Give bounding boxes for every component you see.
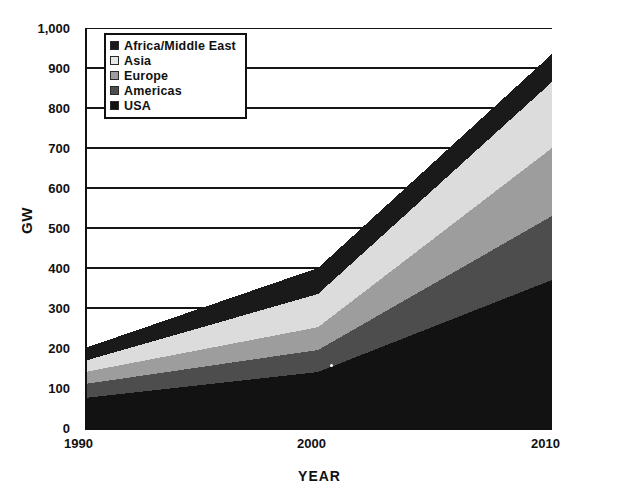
legend-swatch-icon bbox=[110, 86, 119, 95]
y-tick-1000: 1,000 bbox=[12, 21, 70, 36]
x-tick-2000: 2000 bbox=[297, 436, 326, 451]
y-tick-400: 400 bbox=[12, 261, 70, 276]
scan-speck bbox=[330, 364, 333, 367]
chart-page: GW 1,000 900 800 700 600 500 400 300 200… bbox=[0, 0, 639, 498]
y-tick-800: 800 bbox=[12, 101, 70, 116]
legend-swatch-icon bbox=[110, 71, 119, 80]
y-tick-700: 700 bbox=[12, 141, 70, 156]
y-tick-0: 0 bbox=[12, 421, 70, 436]
y-tick-600: 600 bbox=[12, 181, 70, 196]
y-axis-tick-labels: 1,000 900 800 700 600 500 400 300 200 10… bbox=[12, 0, 70, 498]
legend: Africa/Middle East Asia Europe Americas … bbox=[104, 33, 247, 119]
y-tick-100: 100 bbox=[12, 381, 70, 396]
legend-item-americas: Americas bbox=[110, 83, 236, 98]
y-tick-200: 200 bbox=[12, 341, 70, 356]
legend-label: Asia bbox=[124, 54, 151, 68]
legend-swatch-icon bbox=[110, 101, 119, 110]
legend-swatch-icon bbox=[110, 41, 119, 50]
legend-item-africa-middle-east: Africa/Middle East bbox=[110, 38, 236, 53]
legend-label: Africa/Middle East bbox=[124, 39, 236, 53]
legend-label: USA bbox=[124, 99, 151, 113]
scan-speck bbox=[594, 284, 599, 289]
legend-item-usa: USA bbox=[110, 98, 236, 113]
y-tick-300: 300 bbox=[12, 301, 70, 316]
y-tick-900: 900 bbox=[12, 61, 70, 76]
legend-label: Americas bbox=[124, 84, 182, 98]
legend-swatch-icon bbox=[110, 56, 119, 65]
x-tick-1990: 1990 bbox=[64, 436, 93, 451]
x-tick-2010: 2010 bbox=[531, 436, 560, 451]
legend-item-europe: Europe bbox=[110, 68, 236, 83]
x-axis-title: YEAR bbox=[0, 468, 639, 484]
legend-label: Europe bbox=[124, 69, 168, 83]
legend-item-asia: Asia bbox=[110, 53, 236, 68]
y-tick-500: 500 bbox=[12, 221, 70, 236]
